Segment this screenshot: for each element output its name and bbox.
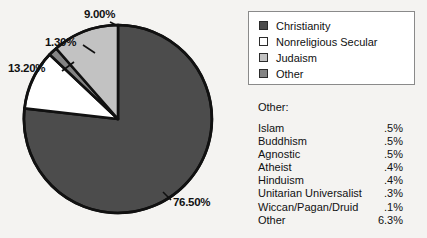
other-breakdown-name: Islam (258, 122, 284, 135)
pie-label-judaism: 9.00% (84, 8, 115, 20)
other-breakdown-row: Hinduism .4% (258, 174, 403, 187)
other-breakdown-value: .3% (384, 187, 403, 200)
other-breakdown-value: .5% (384, 148, 403, 161)
other-breakdown-name: Other (258, 214, 286, 227)
other-breakdown-value: .1% (384, 201, 403, 214)
legend: Christianity Nonreligious Secular Judais… (248, 11, 415, 85)
legend-label: Nonreligious Secular (276, 36, 378, 48)
other-breakdown-row: Atheist .4% (258, 161, 403, 174)
other-breakdown-row: Wiccan/Pagan/Druid .1% (258, 201, 403, 214)
legend-item-christianity: Christianity (259, 18, 414, 33)
legend-label: Other (276, 68, 304, 80)
other-breakdown-name: Agnostic (258, 148, 300, 161)
other-breakdown-row: Buddhism .5% (258, 135, 403, 148)
other-breakdown-name: Buddhism (258, 135, 307, 148)
other-breakdown-value: .4% (384, 161, 403, 174)
legend-swatch-icon (259, 37, 268, 46)
other-breakdown-heading: Other: (258, 101, 403, 113)
other-breakdown-row: Agnostic .5% (258, 148, 403, 161)
other-breakdown-table: Other: Islam .5% Buddhism .5% Agnostic .… (258, 101, 403, 227)
pie-label-other: 1.30% (45, 36, 76, 48)
legend-swatch-icon (259, 69, 268, 78)
other-breakdown-name: Unitarian Universalist (258, 187, 362, 200)
legend-label: Christianity (276, 20, 330, 32)
other-breakdown-row: Islam .5% (258, 122, 403, 135)
other-breakdown-value: .5% (384, 135, 403, 148)
other-breakdown-row: Other 6.3% (258, 214, 403, 227)
legend-item-other: Other (259, 66, 414, 81)
legend-label: Judaism (276, 52, 317, 64)
pie-chart-area: 9.00% 1.30% 13.20% 76.50% (0, 0, 235, 238)
other-breakdown-value: .5% (384, 122, 403, 135)
pie-label-christianity: 76.50% (173, 196, 210, 208)
other-breakdown-name: Wiccan/Pagan/Druid (258, 201, 358, 214)
other-breakdown-name: Atheist (258, 161, 292, 174)
other-breakdown-name: Hinduism (258, 174, 304, 187)
pie-chart-figure: 9.00% 1.30% 13.20% 76.50% Christianity N… (0, 0, 427, 238)
other-breakdown-value: .4% (384, 174, 403, 187)
other-breakdown-value: 6.3% (378, 214, 403, 227)
other-breakdown-row: Unitarian Universalist .3% (258, 187, 403, 200)
legend-item-judaism: Judaism (259, 50, 414, 65)
pie-label-nonreligious-secular: 13.20% (8, 62, 45, 74)
legend-swatch-icon (259, 53, 268, 62)
legend-item-nonreligious-secular: Nonreligious Secular (259, 34, 414, 49)
legend-swatch-icon (259, 21, 268, 30)
